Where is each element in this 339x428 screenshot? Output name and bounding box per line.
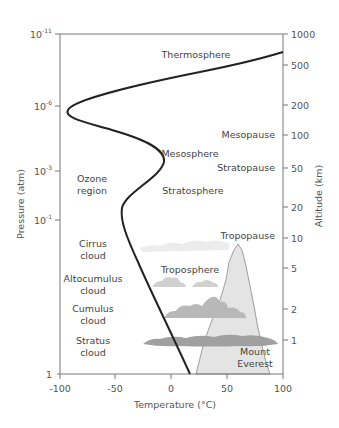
mesosphere-label: Mesosphere xyxy=(161,148,218,159)
right-tick-200: 200 xyxy=(291,100,309,111)
right-tick-100: 100 xyxy=(291,130,309,141)
stratosphere-label: Stratosphere xyxy=(162,185,224,196)
bottom-tick-0: 0 xyxy=(168,383,174,394)
right-ticks xyxy=(283,34,288,340)
bottom-tick-50: 50 xyxy=(221,383,233,394)
atmosphere-diagram: 10-11 10-6 10-3 10-1 1 Pressure (atm) 10… xyxy=(0,0,339,428)
ozone-label-line2: region xyxy=(77,185,107,196)
right-tick-5: 5 xyxy=(291,263,297,274)
stratus-cloud-shape xyxy=(143,335,278,347)
everest-label-line1: Mount xyxy=(240,346,270,357)
bottom-tick-100: 100 xyxy=(274,383,292,394)
mesopause-label: Mesopause xyxy=(222,129,276,140)
pressure-axis-label: Pressure (atm) xyxy=(15,169,26,239)
left-tick-1e-3: 10-3 xyxy=(34,164,52,177)
cirrus-label-line2: cloud xyxy=(80,250,106,261)
cumulus-label-line1: Cumulus xyxy=(72,303,114,314)
right-tick-50: 50 xyxy=(291,163,303,174)
left-tick-1: 1 xyxy=(46,369,52,380)
left-tick-1e-6: 10-6 xyxy=(34,99,52,112)
left-tick-1e-1: 10-1 xyxy=(34,213,52,226)
cirrus-cloud-shape xyxy=(140,240,230,252)
left-tick-1e-11: 10-11 xyxy=(30,27,52,40)
thermosphere-label: Thermosphere xyxy=(161,49,231,60)
altocumulus-cloud-shape-2 xyxy=(192,280,218,287)
bottom-tick-minus100: -100 xyxy=(49,383,71,394)
right-tick-20: 20 xyxy=(291,202,303,213)
stratus-label-line1: Stratus xyxy=(76,335,110,346)
cirrus-label-line1: Cirrus xyxy=(79,238,107,249)
altocumulus-label-line1: Altocumulus xyxy=(64,273,123,284)
temperature-axis-label: Temperature (°C) xyxy=(133,399,216,410)
cumulus-label-line2: cloud xyxy=(80,315,106,326)
altocumulus-cloud-shape xyxy=(152,277,186,287)
troposphere-label: Troposphere xyxy=(160,264,219,275)
everest-label-line2: Everest xyxy=(237,358,273,369)
bottom-tick-minus50: -50 xyxy=(107,383,123,394)
right-tick-2: 2 xyxy=(291,304,297,315)
tropopause-label: Tropopause xyxy=(220,230,276,241)
ozone-label-line1: Ozone xyxy=(77,173,107,184)
right-tick-1: 1 xyxy=(291,335,297,346)
right-tick-500: 500 xyxy=(291,60,309,71)
stratopause-label: Stratopause xyxy=(217,162,275,173)
right-tick-10: 10 xyxy=(291,233,303,244)
altocumulus-label-line2: cloud xyxy=(80,285,106,296)
bottom-ticks xyxy=(60,374,283,379)
right-tick-1000: 1000 xyxy=(291,29,315,40)
altitude-axis-label: Altitude (km) xyxy=(313,165,324,227)
stratus-label-line2: cloud xyxy=(80,347,106,358)
left-ticks xyxy=(55,34,60,220)
